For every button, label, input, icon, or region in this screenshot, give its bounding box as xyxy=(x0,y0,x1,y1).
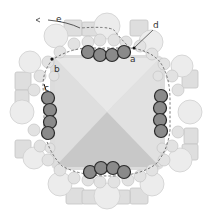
label-a: a xyxy=(130,54,136,64)
label-e: e xyxy=(56,14,62,24)
marker-b xyxy=(50,57,53,60)
label-d: d xyxy=(153,20,159,30)
label-c: c xyxy=(44,83,49,93)
center-stone xyxy=(50,55,165,170)
arrow-e-icon xyxy=(36,18,40,22)
label-b: b xyxy=(54,64,60,74)
beading-diagram: a b c d e xyxy=(0,0,213,222)
